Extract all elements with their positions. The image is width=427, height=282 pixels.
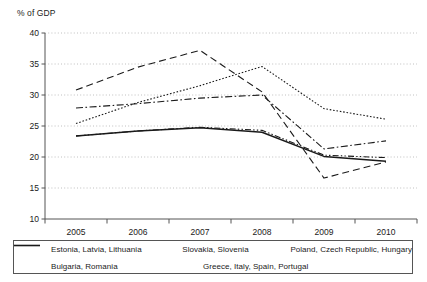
legend-item-greece-italy-spain-portugal: Greece, Italy, Spain, Portugal — [174, 262, 308, 271]
svg-text:30: 30 — [30, 90, 40, 100]
legend-item-poland-czech-hungary: Poland, Czech Republic, Hungary — [261, 245, 412, 254]
legend-label: Slovakia, Slovenia — [182, 245, 248, 254]
svg-text:15: 15 — [30, 183, 40, 193]
series-line — [76, 50, 386, 178]
legend-item-bulgaria-romania: Bulgaria, Romania — [22, 262, 174, 271]
svg-text:2006: 2006 — [129, 227, 148, 237]
svg-text:2005: 2005 — [67, 227, 86, 237]
chart-container: % of GDP 1015202530354020052006200720082… — [0, 0, 427, 282]
legend-item-slovakia-slovenia: Slovakia, Slovenia — [153, 245, 261, 254]
series-line — [76, 95, 386, 149]
legend-item-estonia-latvia-lithuania: Estonia, Latvia, Lithuania — [22, 245, 153, 254]
svg-text:2007: 2007 — [191, 227, 210, 237]
svg-text:2010: 2010 — [377, 227, 396, 237]
svg-text:10: 10 — [30, 214, 40, 224]
svg-text:35: 35 — [30, 59, 40, 69]
legend-row-2: Bulgaria, Romania Greece, Italy, Spain, … — [14, 258, 412, 275]
svg-text:40: 40 — [30, 28, 40, 38]
chart-legend: Estonia, Latvia, Lithuania Slovakia, Slo… — [13, 240, 413, 274]
legend-row-1: Estonia, Latvia, Lithuania Slovakia, Slo… — [14, 241, 412, 258]
legend-label: Estonia, Latvia, Lithuania — [51, 245, 142, 254]
legend-label: Greece, Italy, Spain, Portugal — [203, 262, 308, 271]
legend-swatch-dash-dot — [153, 245, 179, 254]
legend-label: Bulgaria, Romania — [51, 262, 118, 271]
legend-swatch-solid — [174, 262, 200, 271]
line-chart-plot: 10152025303540200520062007200820092010 — [0, 0, 427, 240]
series-line — [76, 128, 386, 161]
svg-text:2009: 2009 — [315, 227, 334, 237]
svg-text:25: 25 — [30, 121, 40, 131]
legend-swatch-dotted — [261, 245, 287, 254]
svg-text:20: 20 — [30, 152, 40, 162]
svg-text:2008: 2008 — [253, 227, 272, 237]
legend-label: Poland, Czech Republic, Hungary — [290, 245, 412, 254]
legend-swatch-dash-dot-dot — [22, 262, 48, 271]
